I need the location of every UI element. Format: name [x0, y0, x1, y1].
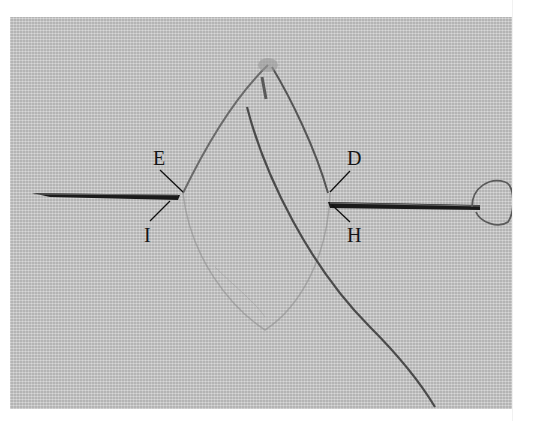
- leader-D: [330, 171, 350, 192]
- stitch-illustration: [10, 17, 512, 409]
- leader-E: [160, 170, 183, 192]
- fabric-photo: E I D H: [10, 17, 512, 409]
- thread-right: [272, 67, 328, 193]
- leader-I: [150, 201, 170, 221]
- label-I: I: [144, 225, 151, 245]
- faint-lens-outline: [183, 193, 330, 330]
- label-E: E: [153, 148, 165, 168]
- knot-tail: [262, 77, 266, 99]
- thread-knot: [258, 58, 278, 72]
- page-edge: [512, 0, 513, 421]
- thread-left: [183, 65, 268, 193]
- thread-diagonal: [247, 107, 435, 407]
- label-H: H: [347, 225, 361, 245]
- thread-loop: [472, 181, 512, 225]
- label-D: D: [347, 148, 361, 168]
